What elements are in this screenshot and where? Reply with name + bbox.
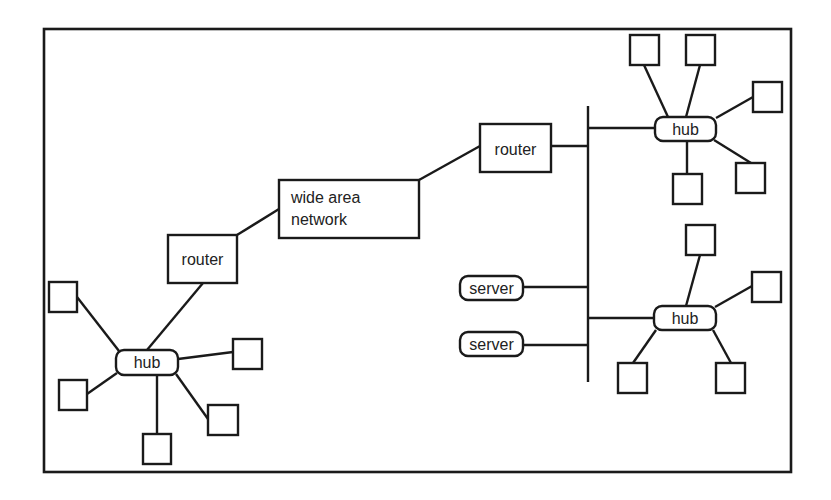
hub-top-right-node: hub xyxy=(655,117,716,141)
host-square-icon xyxy=(753,82,782,112)
link-router-left-hub-left xyxy=(147,283,203,350)
router-right-node: router xyxy=(480,124,551,172)
link-hub-bottom-host-2 xyxy=(715,286,752,307)
link-router-left-wan xyxy=(237,209,279,235)
host-square-icon xyxy=(716,363,745,393)
host-square-icon xyxy=(143,434,171,464)
link-hub-top-host-1 xyxy=(644,65,668,117)
hub-left-label: hub xyxy=(134,354,161,371)
host-square-icon xyxy=(630,35,659,65)
wan-node: wide area network xyxy=(279,180,419,238)
host-square-icon xyxy=(686,35,715,65)
link-hub-top-host-2 xyxy=(686,65,700,117)
host-square-icon xyxy=(59,380,87,410)
link-hub-top-host-3 xyxy=(716,97,753,118)
link-wan-router-right xyxy=(419,146,480,180)
server-2-label: server xyxy=(469,336,514,353)
host-square-icon xyxy=(618,363,647,393)
server-2-node: server xyxy=(460,332,523,356)
network-diagram: wide area network router router hub hub … xyxy=(0,0,831,500)
host-square-icon xyxy=(686,225,715,255)
router-left-label: router xyxy=(182,251,224,268)
router-right-label: router xyxy=(495,141,537,158)
wan-label-line-2: network xyxy=(291,211,348,228)
link-hub-bottom-host-1 xyxy=(686,255,700,306)
link-hub-left-host-4 xyxy=(176,374,208,419)
link-hub-bottom-host-4 xyxy=(713,330,731,363)
hub-left-node: hub xyxy=(116,350,178,375)
server-1-label: server xyxy=(469,280,514,297)
hub-bottom-right-label: hub xyxy=(672,310,699,327)
host-square-icon xyxy=(752,272,781,302)
hub-bottom-right-node: hub xyxy=(654,306,716,330)
link-hub-top-host-4 xyxy=(714,140,751,163)
host-square-icon xyxy=(736,163,765,193)
host-square-icon xyxy=(233,339,262,369)
router-left-node: router xyxy=(168,235,237,283)
link-hub-left-host-1 xyxy=(77,297,119,351)
link-hub-bottom-host-3 xyxy=(633,330,656,363)
host-square-icon xyxy=(208,405,238,435)
wan-label-line-1: wide area xyxy=(290,189,360,206)
hub-top-right-label: hub xyxy=(672,121,699,138)
host-square-icon xyxy=(673,174,702,204)
link-hub-left-host-2 xyxy=(87,373,117,394)
host-square-icon xyxy=(49,282,77,312)
link-hub-left-host-5 xyxy=(178,352,233,359)
server-1-node: server xyxy=(460,276,523,300)
